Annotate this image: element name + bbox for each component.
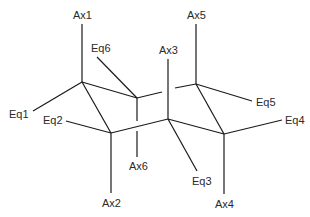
bond-eq2 <box>66 121 111 133</box>
bond-eq3 <box>168 119 197 171</box>
bond-c6-c5-part <box>137 92 162 98</box>
ring-bonds <box>82 82 224 134</box>
bond-c3-c4 <box>168 119 224 134</box>
bond-c2-c3 <box>111 119 168 133</box>
label-eq3: Eq3 <box>192 175 212 187</box>
position-labels: Ax1 Eq6 Ax3 Ax5 Eq5 Eq4 Eq1 Eq2 Ax6 Eq3 … <box>9 9 305 210</box>
bond-eq4 <box>224 120 282 134</box>
label-ax2: Ax2 <box>102 197 121 209</box>
bond-c5-c6-part <box>175 84 196 88</box>
label-eq2: Eq2 <box>43 114 63 126</box>
bond-eq1 <box>33 82 82 111</box>
label-ax5: Ax5 <box>187 9 206 21</box>
label-eq5: Eq5 <box>256 96 276 108</box>
label-ax6: Ax6 <box>129 160 148 172</box>
label-ax3: Ax3 <box>159 44 178 56</box>
label-ax4: Ax4 <box>215 198 234 210</box>
label-eq4: Eq4 <box>285 114 305 126</box>
label-eq6: Eq6 <box>91 42 111 54</box>
label-ax1: Ax1 <box>73 9 92 21</box>
substituent-bonds <box>33 24 282 194</box>
chair-conformation-diagram: Ax1 Eq6 Ax3 Ax5 Eq5 Eq4 Eq1 Eq2 Ax6 Eq3 … <box>0 0 310 217</box>
label-eq1: Eq1 <box>9 108 29 120</box>
